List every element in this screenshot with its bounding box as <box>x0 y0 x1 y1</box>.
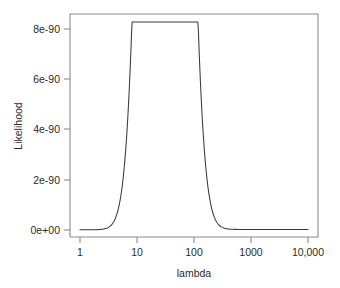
x-tick-label-100: 100 <box>185 246 203 258</box>
y-tick-label-2e-90: 2e-90 <box>33 174 60 186</box>
y-axis-title: Likelihood <box>12 102 24 149</box>
x-tick-label-10: 10 <box>131 246 143 258</box>
x-tick-label-10000: 10,000 <box>292 246 324 258</box>
x-tick-label-1000: 1000 <box>239 246 263 258</box>
y-tick-label-8e-90: 8e-90 <box>33 23 60 35</box>
y-tick-label-0e00: 0e+00 <box>31 224 61 236</box>
x-tick-label-1: 1 <box>77 246 83 258</box>
chart-figure: 8e-90 6e-90 4e-90 2e-90 0e+00 1 10 100 1… <box>0 0 340 288</box>
x-axis-title: lambda <box>177 267 212 279</box>
y-tick-label-6e-90: 6e-90 <box>33 73 60 85</box>
likelihood-line-chart: 8e-90 6e-90 4e-90 2e-90 0e+00 1 10 100 1… <box>0 0 340 288</box>
y-tick-label-4e-90: 4e-90 <box>33 123 60 135</box>
chart-background <box>0 0 340 288</box>
